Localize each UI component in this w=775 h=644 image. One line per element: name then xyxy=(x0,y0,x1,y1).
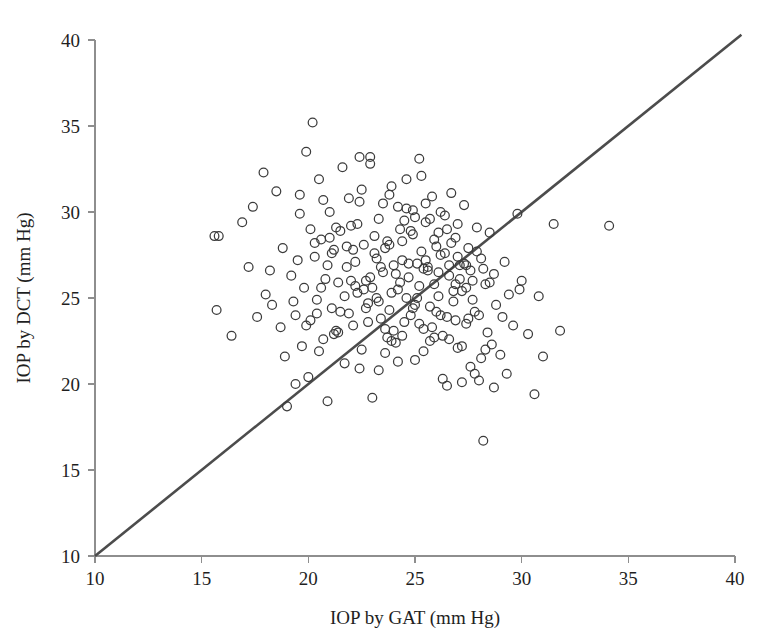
data-point-marker xyxy=(325,233,334,242)
data-point-marker xyxy=(500,257,509,266)
data-point-marker xyxy=(417,171,426,180)
data-point-marker xyxy=(428,192,437,201)
data-point-marker xyxy=(498,313,507,322)
data-point-marker xyxy=(445,261,454,270)
data-point-marker xyxy=(317,283,326,292)
data-point-marker xyxy=(389,261,398,270)
data-point-marker xyxy=(434,228,443,237)
data-point-marker xyxy=(368,283,377,292)
x-tick-label: 35 xyxy=(619,568,638,589)
x-tick-label: 15 xyxy=(192,568,211,589)
data-point-marker xyxy=(344,309,353,318)
data-point-marker xyxy=(443,225,452,234)
data-point-marker xyxy=(321,275,330,284)
data-point-marker xyxy=(402,204,411,213)
data-point-marker xyxy=(453,220,462,229)
data-point-marker xyxy=(381,325,390,334)
data-point-marker xyxy=(374,366,383,375)
data-point-marker xyxy=(490,383,499,392)
x-tick-label: 10 xyxy=(86,568,105,589)
data-point-marker xyxy=(353,220,362,229)
data-point-marker xyxy=(325,208,334,217)
data-point-marker xyxy=(364,299,373,308)
data-point-marker xyxy=(300,283,309,292)
data-point-marker xyxy=(323,261,332,270)
data-point-marker xyxy=(295,190,304,199)
data-point-marker xyxy=(394,202,403,211)
data-point-marker xyxy=(398,331,407,340)
data-point-marker xyxy=(248,202,257,211)
data-point-marker xyxy=(468,295,477,304)
data-point-marker xyxy=(481,345,490,354)
data-point-marker xyxy=(492,300,501,309)
y-tick-label: 30 xyxy=(61,202,80,223)
data-point-marker xyxy=(477,354,486,363)
data-point-marker xyxy=(524,330,533,339)
data-point-marker xyxy=(434,292,443,301)
data-point-marker xyxy=(370,232,379,241)
data-point-marker xyxy=(381,349,390,358)
data-point-marker xyxy=(398,237,407,246)
data-point-marker xyxy=(364,318,373,327)
data-point-marker xyxy=(355,364,364,373)
data-point-marker xyxy=(402,175,411,184)
data-point-marker xyxy=(549,220,558,229)
data-point-marker xyxy=(445,271,454,280)
data-point-marker xyxy=(485,228,494,237)
x-tick-label: 20 xyxy=(299,568,318,589)
data-point-marker xyxy=(443,381,452,390)
data-point-marker xyxy=(462,319,471,328)
data-point-marker xyxy=(295,209,304,218)
data-point-marker xyxy=(396,225,405,234)
data-point-marker xyxy=(374,214,383,223)
data-point-marker xyxy=(272,187,281,196)
data-point-marker xyxy=(370,249,379,258)
data-point-marker xyxy=(468,276,477,285)
data-point-marker xyxy=(387,182,396,191)
y-tick-label: 35 xyxy=(61,116,80,137)
data-point-marker xyxy=(368,393,377,402)
data-point-marker xyxy=(276,323,285,332)
data-point-marker xyxy=(355,153,364,162)
data-point-marker xyxy=(359,240,368,249)
data-point-marker xyxy=(340,292,349,301)
data-point-marker xyxy=(261,290,270,299)
data-point-marker xyxy=(291,311,300,320)
data-point-marker xyxy=(315,347,324,356)
data-point-marker xyxy=(389,326,398,335)
data-points-group xyxy=(210,118,613,445)
data-point-marker xyxy=(534,292,543,301)
data-point-marker xyxy=(266,266,275,275)
data-point-marker xyxy=(447,189,456,198)
data-point-marker xyxy=(319,335,328,344)
data-point-marker xyxy=(400,216,409,225)
data-point-marker xyxy=(460,201,469,210)
data-point-marker xyxy=(556,326,565,335)
data-point-marker xyxy=(312,309,321,318)
data-point-marker xyxy=(509,321,518,330)
data-point-marker xyxy=(417,247,426,256)
data-point-marker xyxy=(605,221,614,230)
data-point-marker xyxy=(357,345,366,354)
data-point-marker xyxy=(376,263,385,272)
data-point-marker xyxy=(336,307,345,316)
data-point-marker xyxy=(464,314,473,323)
data-point-marker xyxy=(443,313,452,322)
data-point-marker xyxy=(298,342,307,351)
data-point-marker xyxy=(334,278,343,287)
data-point-marker xyxy=(402,294,411,303)
data-point-marker xyxy=(421,199,430,208)
data-point-marker xyxy=(355,197,364,206)
data-point-marker xyxy=(490,270,499,279)
data-point-marker xyxy=(400,318,409,327)
data-point-marker xyxy=(411,356,420,365)
y-tick-label: 10 xyxy=(61,546,80,567)
data-point-marker xyxy=(530,390,539,399)
data-point-marker xyxy=(379,268,388,277)
data-point-marker xyxy=(539,352,548,361)
data-point-marker xyxy=(449,297,458,306)
data-point-marker xyxy=(415,154,424,163)
data-point-marker xyxy=(357,185,366,194)
data-point-marker xyxy=(323,397,332,406)
data-point-marker xyxy=(394,357,403,366)
